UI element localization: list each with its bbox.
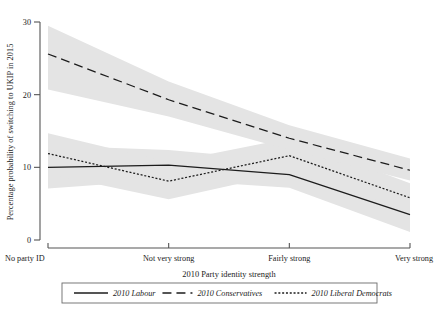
x-tick-marks	[48, 243, 410, 248]
y-tick-label: 10	[23, 163, 31, 172]
x-tick-label: Not very strong	[143, 254, 194, 263]
y-tick-label: 0	[27, 236, 31, 245]
x-axis-title: 2010 Party identity strength	[182, 270, 276, 279]
x-tick-label: Very strong	[395, 254, 433, 263]
y-axis-title: Percentage probability of switching to U…	[6, 44, 15, 221]
y-tick-label: 30	[23, 18, 31, 27]
legend-entries: 2010 Labour2010 Conservatives2010 Libera…	[74, 289, 392, 298]
y-axis: 0102030	[23, 18, 40, 245]
legend: 2010 Labour2010 Conservatives2010 Libera…	[62, 283, 392, 303]
legend-label-0: 2010 Labour	[113, 289, 156, 298]
x-axis: No party IDNot very strongFairly strongV…	[5, 243, 433, 263]
x-tick-label: Fairly strong	[268, 254, 310, 263]
x-tick-label: No party ID	[5, 254, 45, 263]
confidence-bands	[48, 26, 410, 232]
legend-label-2: 2010 Liberal Democrats	[312, 289, 393, 298]
y-tick-marks	[34, 22, 40, 240]
x-tick-labels: No party IDNot very strongFairly strongV…	[5, 254, 433, 263]
chart-figure: 0102030 No party IDNot very strongFairly…	[0, 0, 436, 313]
legend-label-1: 2010 Conservatives	[197, 289, 262, 298]
y-tick-label: 20	[23, 91, 31, 100]
line-chart-svg: 0102030 No party IDNot very strongFairly…	[0, 0, 436, 313]
y-tick-labels: 0102030	[23, 18, 31, 245]
